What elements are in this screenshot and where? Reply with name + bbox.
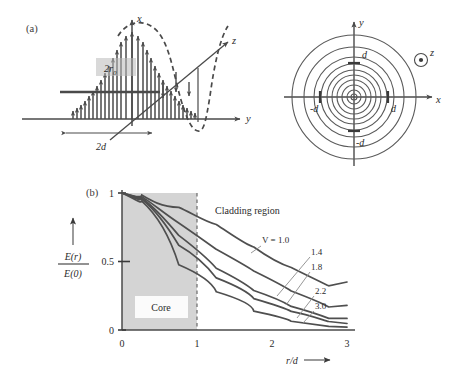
chart-xtick-0: 0 bbox=[120, 338, 125, 349]
chart-ylabel-denominator: E(0) bbox=[63, 268, 82, 280]
panel-b-chart: 1 0.5 0 0 1 2 3 E(r) E(0) r/d V = 1.0 1.… bbox=[58, 188, 355, 366]
chart-ytick-0p5: 0.5 bbox=[102, 256, 115, 267]
chart-ytick-0: 0 bbox=[109, 325, 114, 336]
dashed-envelope-curve bbox=[118, 23, 228, 131]
z-axis-label: z bbox=[231, 35, 236, 46]
tick-label-bottom-d: -d bbox=[356, 137, 365, 148]
chart-xtick-2: 2 bbox=[270, 338, 275, 349]
figure-container: (a) y x z bbox=[0, 0, 458, 381]
dot-in-circle-icon bbox=[415, 54, 428, 67]
tick-label-right-d: d bbox=[391, 103, 397, 114]
cross-section-z-label: z bbox=[429, 47, 434, 58]
cross-section-x-label: x bbox=[435, 94, 441, 105]
cladding-region-label: Cladding region bbox=[215, 205, 280, 216]
curve-label-v-1p8: 1.8 bbox=[311, 262, 323, 272]
figure-svg: (a) y x z bbox=[0, 0, 458, 381]
cross-section-y-label: y bbox=[358, 17, 364, 28]
chart-xlabel: r/d bbox=[286, 355, 299, 366]
leader-line-v-1p8 bbox=[286, 272, 310, 305]
chart-ylabel-numerator: E(r) bbox=[64, 251, 82, 263]
tick-label-top-d: d bbox=[362, 49, 368, 60]
leader-line-v-1p4 bbox=[277, 257, 310, 296]
y-axis-label: y bbox=[245, 113, 251, 124]
panel-b-label: (b) bbox=[86, 187, 99, 199]
curve-label-v-1p0: V = 1.0 bbox=[262, 235, 290, 245]
curve-label-v-2p2: 2.2 bbox=[315, 286, 326, 296]
chart-ytick-1: 1 bbox=[109, 188, 114, 199]
chart-xtick-1: 1 bbox=[195, 338, 200, 349]
panel-a-right-diagram: x y d -d d -d bbox=[284, 17, 441, 166]
curve-label-v-3p0: 3.0 bbox=[315, 301, 327, 311]
panel-a-left-diagram: y x z bbox=[22, 13, 251, 152]
panel-a-label: (a) bbox=[26, 23, 38, 35]
tick-label-left-d: -d bbox=[310, 103, 319, 114]
chart-xtick-3: 3 bbox=[345, 338, 350, 349]
curve-label-v-1p4: 1.4 bbox=[311, 247, 323, 257]
core-region-label: Core bbox=[151, 302, 171, 313]
width-dimension-label: 2d bbox=[96, 141, 107, 152]
